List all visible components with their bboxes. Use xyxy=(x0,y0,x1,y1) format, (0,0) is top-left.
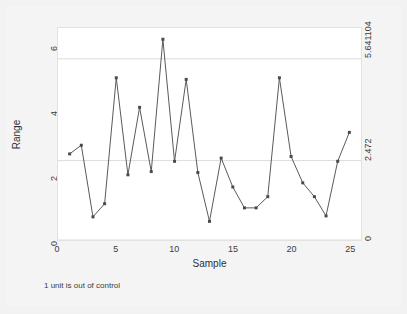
data-point-marker xyxy=(185,78,188,81)
r-control-chart: Range 0246 5.6411042.4720 0510152025 Sam… xyxy=(0,0,407,314)
y-axis-left: 0246 xyxy=(30,27,56,241)
x-axis-tick-label: 15 xyxy=(228,245,238,254)
data-point-marker xyxy=(255,206,258,209)
data-point-marker xyxy=(150,170,153,173)
series-line-range xyxy=(70,39,350,221)
data-point-marker xyxy=(336,160,339,163)
data-point-marker xyxy=(115,76,118,79)
y-axis-right-control-limits: 5.6411042.4720 xyxy=(364,27,398,241)
x-axis-tick-label: 25 xyxy=(345,245,355,254)
x-axis-tick-label: 0 xyxy=(54,245,59,254)
data-point-marker xyxy=(173,160,176,163)
control-limit-label-ucl: 5.641104 xyxy=(364,21,373,58)
data-point-marker xyxy=(313,195,316,198)
data-point-marker xyxy=(290,155,293,158)
data-point-marker xyxy=(278,76,281,79)
x-axis: 0510152025 xyxy=(57,243,362,259)
data-point-marker xyxy=(231,186,234,189)
data-point-marker xyxy=(126,173,129,176)
data-point-marker xyxy=(325,214,328,217)
out-of-control-note: 1 unit is out of control xyxy=(44,281,120,290)
plot-area xyxy=(57,27,362,241)
x-axis-tick-label: 5 xyxy=(113,245,118,254)
plot-svg xyxy=(58,28,361,240)
data-point-marker xyxy=(91,215,94,218)
y-axis-title: Range xyxy=(10,27,24,241)
control-limit-label-lcl: 0 xyxy=(364,236,373,241)
data-point-marker xyxy=(103,202,106,205)
data-point-marker xyxy=(348,131,351,134)
x-axis-title: Sample xyxy=(57,258,362,269)
data-point-marker xyxy=(220,157,223,160)
data-point-marker xyxy=(138,106,141,109)
data-point-marker xyxy=(80,144,83,147)
control-limit-label-cl: 2.472 xyxy=(364,138,373,161)
data-point-marker xyxy=(208,220,211,223)
data-point-marker xyxy=(266,195,269,198)
x-axis-tick-label: 10 xyxy=(169,245,179,254)
data-point-marker xyxy=(301,181,304,184)
data-point-marker xyxy=(243,206,246,209)
data-point-marker xyxy=(161,38,164,41)
data-point-marker xyxy=(196,171,199,174)
data-point-marker xyxy=(68,152,71,155)
y-axis-title-label: Range xyxy=(12,119,23,148)
x-axis-tick-label: 20 xyxy=(287,245,297,254)
